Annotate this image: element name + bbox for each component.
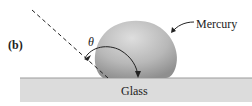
angle-label: θ <box>88 35 94 50</box>
part-label: (b) <box>8 38 23 53</box>
tangent-line <box>32 10 108 78</box>
mercury-label: Mercury <box>196 17 237 32</box>
contact-angle-diagram: (b) θ Mercury Glass <box>0 0 252 106</box>
glass-label: Glass <box>121 84 148 99</box>
mercury-drop <box>95 21 177 78</box>
